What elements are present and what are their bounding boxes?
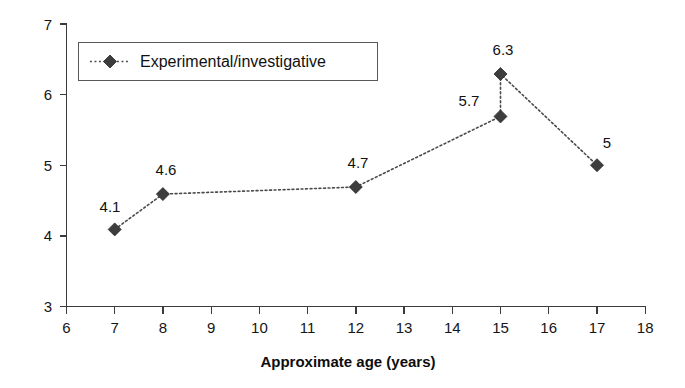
x-tick-label-12: 12 xyxy=(347,319,364,336)
data-point-marker-icon[interactable] xyxy=(156,188,169,201)
x-tick-label-18: 18 xyxy=(637,319,654,336)
series-line-experimental-investigative xyxy=(115,74,597,229)
x-tick-label-16: 16 xyxy=(540,319,557,336)
x-tick-label-7: 7 xyxy=(111,319,119,336)
x-tick-label-10: 10 xyxy=(251,319,268,336)
x-axis-title: Approximate age (years) xyxy=(260,353,435,370)
y-axis-ticks xyxy=(60,24,67,307)
data-point-label-4-6: 4.6 xyxy=(156,161,177,178)
y-tick-label-5: 5 xyxy=(44,157,52,174)
x-tick-label-17: 17 xyxy=(589,319,606,336)
x-axis-tick-labels: 6 7 8 9 10 11 12 13 14 15 16 17 18 xyxy=(62,319,653,336)
line-chart: 3 4 5 6 7 6 7 8 9 10 1 xyxy=(0,0,685,388)
data-point-label-4-1: 4.1 xyxy=(100,198,121,215)
data-point-marker-icon[interactable] xyxy=(494,68,507,81)
x-tick-label-8: 8 xyxy=(159,319,167,336)
data-point-marker-icon[interactable] xyxy=(494,110,507,123)
y-tick-label-4: 4 xyxy=(44,227,52,244)
x-tick-label-9: 9 xyxy=(207,319,215,336)
data-point-marker-icon[interactable] xyxy=(349,181,362,194)
x-axis-ticks xyxy=(67,307,646,315)
x-tick-label-15: 15 xyxy=(492,319,509,336)
data-point-label-5: 5 xyxy=(603,134,611,151)
y-tick-label-6: 6 xyxy=(44,86,52,103)
x-tick-label-6: 6 xyxy=(62,319,70,336)
legend-entry-label: Experimental/investigative xyxy=(140,53,326,70)
x-tick-label-14: 14 xyxy=(444,319,461,336)
x-tick-label-13: 13 xyxy=(396,319,413,336)
x-tick-label-11: 11 xyxy=(300,319,316,336)
chart-container: 3 4 5 6 7 6 7 8 9 10 1 xyxy=(0,0,685,388)
y-tick-label-3: 3 xyxy=(44,298,52,315)
series-markers xyxy=(108,68,603,236)
data-point-marker-icon[interactable] xyxy=(108,223,121,236)
data-point-label-6-3: 6.3 xyxy=(493,41,514,58)
y-axis-tick-labels: 3 4 5 6 7 xyxy=(44,16,52,316)
data-point-label-5-7: 5.7 xyxy=(459,92,480,109)
chart-legend: Experimental/investigative xyxy=(79,43,378,81)
y-tick-label-7: 7 xyxy=(44,16,52,33)
data-point-label-4-7: 4.7 xyxy=(348,154,369,171)
